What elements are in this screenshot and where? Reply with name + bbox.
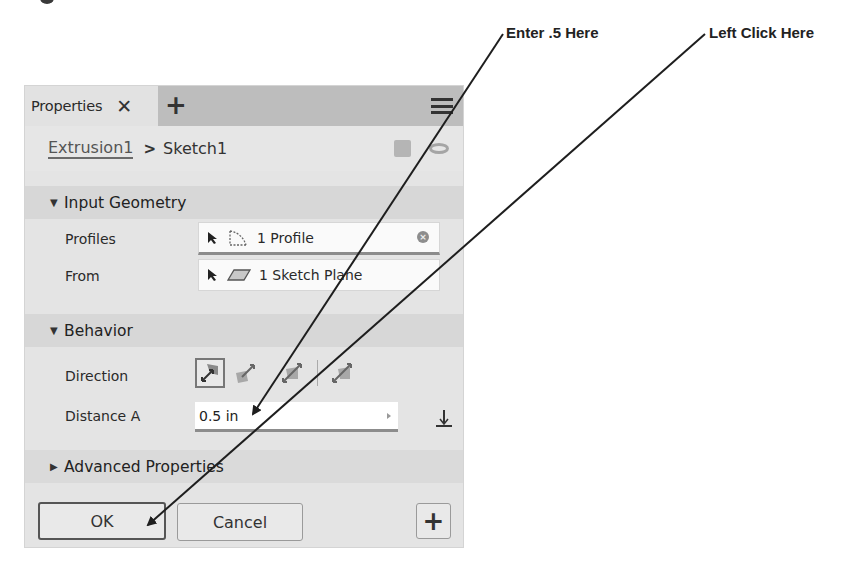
- measure-distance-icon[interactable]: [433, 408, 455, 430]
- triangle-down-icon: ▼: [50, 197, 64, 208]
- distance-a-input[interactable]: 0.5 in: [195, 402, 398, 432]
- section-advanced-properties-title: Advanced Properties: [64, 458, 224, 476]
- tab-properties[interactable]: Properties ✕: [25, 86, 158, 126]
- ok-button[interactable]: OK: [38, 502, 166, 540]
- from-label: From: [65, 268, 100, 284]
- direction-divider: [317, 360, 318, 386]
- direction-default-button[interactable]: [195, 358, 225, 388]
- breadcrumb-extrusion1-link[interactable]: Extrusion1: [48, 139, 133, 159]
- sketch-plane-icon: [227, 268, 251, 282]
- cube-icon[interactable]: [394, 140, 411, 157]
- tab-bar: Properties ✕ +: [25, 86, 463, 126]
- callout-enter-value: Enter .5 Here: [506, 24, 599, 41]
- hamburger-menu-icon[interactable]: [431, 98, 453, 114]
- section-behavior-header[interactable]: ▼ Behavior: [25, 314, 463, 347]
- from-selector[interactable]: 1 Sketch Plane: [198, 259, 440, 291]
- distance-dropdown-arrow-icon[interactable]: [387, 413, 391, 419]
- callout-left-click: Left Click Here: [709, 24, 814, 41]
- cropped-figure-label-fragment: [40, 0, 54, 4]
- section-input-geometry-title: Input Geometry: [64, 194, 186, 212]
- select-cursor-icon: [207, 268, 219, 282]
- section-input-geometry-header[interactable]: ▼ Input Geometry: [25, 186, 463, 219]
- close-icon[interactable]: ✕: [116, 97, 132, 116]
- direction-asymmetric-icon: [330, 361, 354, 385]
- profiles-value: 1 Profile: [257, 230, 314, 246]
- direction-symmetric-icon: [280, 361, 304, 385]
- breadcrumb: Extrusion1 > Sketch1: [25, 126, 463, 171]
- triangle-right-icon: ▶: [50, 461, 64, 472]
- direction-label: Direction: [65, 368, 128, 384]
- tab-properties-label: Properties: [31, 98, 102, 114]
- profiles-selector[interactable]: 1 Profile ×: [198, 222, 440, 255]
- clear-selection-icon[interactable]: ×: [417, 231, 429, 243]
- profile-icon: [227, 229, 249, 247]
- profiles-label: Profiles: [65, 231, 116, 247]
- plus-icon[interactable]: +: [165, 90, 187, 120]
- select-cursor-icon: [207, 231, 219, 245]
- cancel-button[interactable]: Cancel: [177, 503, 303, 541]
- direction-flipped-icon: [234, 361, 258, 385]
- direction-flipped-button[interactable]: [231, 358, 261, 388]
- distance-a-value: 0.5 in: [199, 408, 238, 424]
- eye-icon[interactable]: [429, 143, 449, 154]
- triangle-down-icon: ▼: [50, 325, 64, 336]
- properties-panel: Properties ✕ + Extrusion1 > Sketch1 ▼ In…: [24, 85, 464, 548]
- direction-symmetric-button[interactable]: [277, 358, 307, 388]
- section-behavior-title: Behavior: [64, 322, 133, 340]
- section-advanced-properties-header[interactable]: ▶ Advanced Properties: [25, 450, 463, 483]
- apply-and-new-button[interactable]: +: [416, 503, 451, 539]
- distance-a-label: Distance A: [65, 408, 140, 424]
- breadcrumb-current: Sketch1: [163, 139, 227, 158]
- direction-options: [195, 358, 395, 390]
- breadcrumb-separator: >: [143, 140, 156, 158]
- direction-asymmetric-button[interactable]: [327, 358, 357, 388]
- direction-default-icon: [198, 361, 222, 385]
- from-value: 1 Sketch Plane: [259, 267, 362, 283]
